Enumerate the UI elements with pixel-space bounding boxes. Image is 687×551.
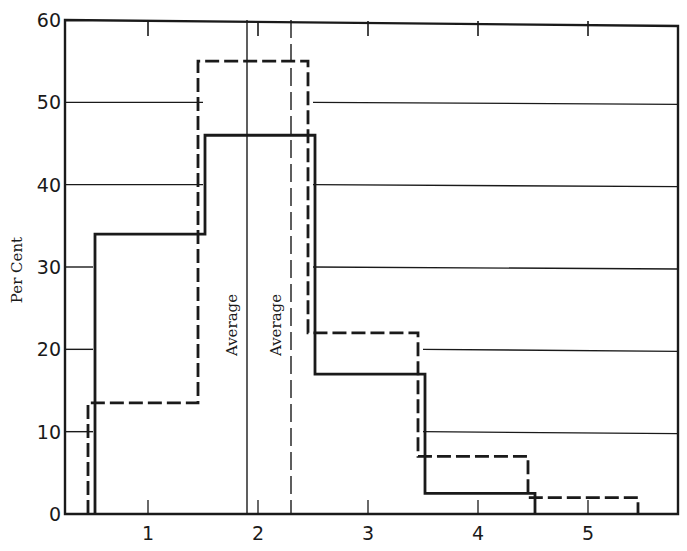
x-tick-label: 1: [142, 522, 154, 544]
y-tick-label: 0: [49, 503, 61, 525]
y-tick-label: 10: [37, 421, 61, 443]
gridline: [313, 102, 678, 104]
y-axis-title: Per Cent: [8, 237, 26, 303]
x-tick-label: 5: [582, 522, 594, 544]
x-tick-labels: 12345: [142, 522, 594, 544]
gridlines: [65, 102, 678, 433]
series-dashed-path: [88, 61, 638, 514]
gridline: [313, 185, 678, 187]
x-tick-label: 2: [252, 522, 264, 544]
average-label-dashed: Average: [267, 294, 285, 357]
gridline: [423, 432, 678, 434]
y-tick-labels: 0102030405060: [37, 9, 61, 525]
x-tick-label: 3: [362, 522, 374, 544]
average-lines: [247, 20, 291, 514]
gridline: [313, 267, 678, 269]
y-tick-label: 60: [37, 9, 61, 31]
y-tick-label: 30: [37, 256, 61, 278]
y-tick-label: 50: [37, 91, 61, 113]
histogram-chart: 0102030405060 12345 Per Cent Average Ave…: [0, 0, 687, 551]
gridline: [423, 349, 678, 351]
y-tick-label: 40: [37, 174, 61, 196]
x-tick-label: 4: [472, 522, 484, 544]
y-tick-label: 20: [37, 338, 61, 360]
series-dashed-outline: [88, 61, 638, 514]
average-label-solid: Average: [223, 294, 241, 357]
